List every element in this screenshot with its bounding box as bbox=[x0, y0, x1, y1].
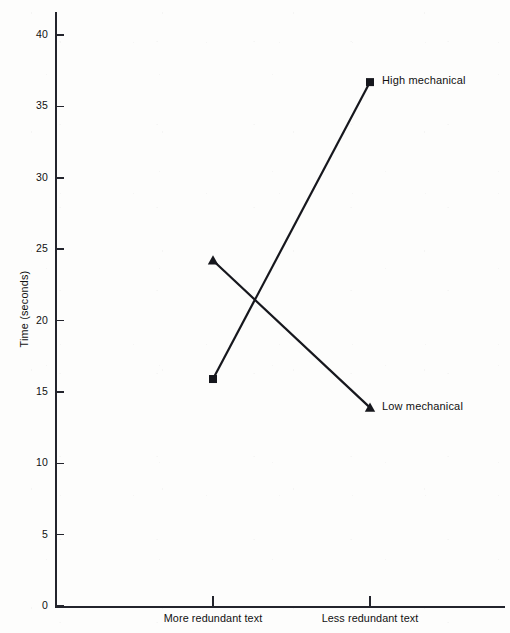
series-label-high-mechanical: High mechanical bbox=[382, 74, 466, 86]
series-label-low-mechanical: Low mechanical bbox=[382, 400, 463, 412]
data-point-marker-square bbox=[366, 78, 374, 86]
plot-area bbox=[0, 0, 510, 633]
line-chart-figure: Time (seconds) 0510152025303540 More red… bbox=[0, 0, 510, 633]
data-point-marker-square bbox=[209, 375, 217, 383]
data-point-marker-triangle bbox=[208, 255, 218, 264]
